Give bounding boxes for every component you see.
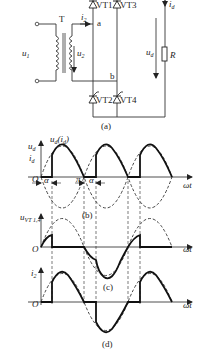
- vt1-label: VT1: [96, 0, 113, 10]
- caption-a: (a): [101, 121, 111, 131]
- id-axis-label: id: [29, 153, 36, 164]
- secondary-coil: [70, 36, 73, 70]
- origin-b: O: [32, 174, 39, 184]
- i2-axis-label: i2: [31, 268, 37, 279]
- alpha-2: α: [89, 175, 94, 185]
- origin-d: O: [32, 299, 39, 309]
- rectifier-figure: T u1 u2 i2 a b VT1 VT3 VT2 VT4 ud id R (…: [0, 0, 204, 362]
- transformer-label: T: [59, 14, 65, 24]
- node-a-label: a: [97, 18, 101, 28]
- resistor: [162, 47, 167, 61]
- caption-d: (d): [102, 339, 113, 349]
- timing-guides: [52, 181, 140, 305]
- id-label: id: [169, 0, 176, 10]
- circuit-diagram: T u1 u2 i2 a b VT1 VT3 VT2 VT4 ud id R (…: [22, 0, 176, 131]
- waveform-b: ud(id) ud id O α π α ωt (b): [28, 134, 192, 220]
- input-terminal-top: [35, 22, 39, 26]
- input-terminal-bottom: [35, 79, 39, 83]
- uvt-axis-label: uVT 1,4: [20, 212, 40, 223]
- x-axis-label-b: ωt: [183, 180, 192, 190]
- caption-c: (c): [103, 282, 113, 292]
- ud-label: ud: [146, 47, 155, 58]
- u1-label: u1: [22, 48, 30, 59]
- resistor-label: R: [169, 50, 176, 60]
- ud-axis-label: ud: [28, 141, 37, 152]
- waveform-c: uVT 1,4 O ωt (c): [20, 212, 192, 292]
- i2-label: i2: [81, 12, 87, 23]
- vt4-label: VT4: [120, 95, 137, 105]
- u2-label: u2: [77, 48, 85, 59]
- origin-c: O: [32, 244, 39, 254]
- primary-coil: [56, 36, 59, 70]
- ud-id-title: ud(id): [50, 134, 69, 145]
- node-b-label: b: [110, 71, 115, 81]
- vt3-label: VT3: [120, 0, 137, 10]
- x-axis-label-c: ωt: [183, 244, 192, 254]
- waveform-d: i2 O ωt (d): [28, 268, 192, 349]
- vt2-label: VT2: [96, 95, 113, 105]
- caption-b: (b): [82, 210, 93, 220]
- alpha-1: α: [44, 175, 49, 185]
- pi-label: π: [76, 174, 81, 184]
- x-axis-label-d: ωt: [183, 300, 192, 310]
